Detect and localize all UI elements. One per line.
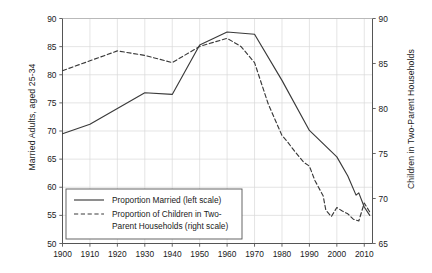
- svg-text:2000: 2000: [328, 249, 347, 259]
- svg-text:80: 80: [47, 70, 57, 80]
- svg-text:70: 70: [379, 194, 389, 204]
- svg-text:65: 65: [379, 239, 389, 249]
- svg-text:1920: 1920: [108, 249, 127, 259]
- svg-text:1950: 1950: [190, 249, 209, 259]
- series-line-1: [63, 32, 370, 215]
- svg-text:1970: 1970: [245, 249, 264, 259]
- svg-text:75: 75: [47, 98, 57, 108]
- legend-label-2: Parent Households (right scale): [112, 221, 228, 231]
- chart-figure: Married Adults, aged 25-34 Children in T…: [0, 0, 432, 273]
- legend-label-2: Proportion of Children in Two-: [112, 209, 222, 219]
- svg-text:55: 55: [47, 210, 57, 220]
- svg-text:70: 70: [47, 126, 57, 136]
- svg-text:1940: 1940: [163, 249, 182, 259]
- svg-text:1980: 1980: [273, 249, 292, 259]
- svg-text:1910: 1910: [81, 249, 100, 259]
- svg-text:60: 60: [47, 182, 57, 192]
- svg-text:90: 90: [379, 14, 389, 24]
- svg-text:75: 75: [379, 149, 389, 159]
- svg-text:65: 65: [47, 154, 57, 164]
- svg-text:85: 85: [47, 42, 57, 52]
- svg-text:50: 50: [47, 239, 57, 249]
- svg-text:1900: 1900: [53, 249, 72, 259]
- svg-text:1990: 1990: [300, 249, 319, 259]
- chart-legend: Proportion Married (left scale)Proportio…: [66, 189, 242, 239]
- svg-text:80: 80: [379, 104, 389, 114]
- svg-text:2010: 2010: [355, 249, 374, 259]
- plot-area: 1900191019201930194019501960197019801990…: [0, 0, 432, 273]
- svg-text:90: 90: [47, 14, 57, 24]
- svg-text:1960: 1960: [218, 249, 237, 259]
- legend-label-1: Proportion Married (left scale): [112, 195, 222, 205]
- svg-text:1930: 1930: [135, 249, 154, 259]
- svg-text:85: 85: [379, 59, 389, 69]
